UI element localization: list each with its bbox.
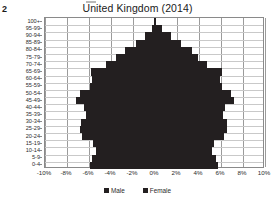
y-axis-tick-label-55-59: 55-59: [26, 82, 40, 88]
bar-male-5-9: [92, 155, 155, 162]
bar-male-70-74: [106, 61, 155, 68]
vertical-gridline-10: [265, 18, 266, 167]
bar-male-35-39: [86, 111, 155, 118]
bar-male-20-24: [82, 133, 155, 140]
y-axis-tick: [40, 78, 42, 79]
x-axis-tick-label-neg10pct: -10%: [37, 169, 51, 176]
bar-female-50-54: [155, 90, 231, 97]
bar-female-95-99: [155, 25, 162, 32]
y-axis-tick: [40, 49, 42, 50]
bar-male-30-34: [81, 119, 155, 126]
chart-legend: MaleFemale: [0, 187, 275, 194]
bar-female-30-34: [155, 119, 227, 126]
bar-female-0-4: [155, 162, 218, 169]
y-axis-tick-label-75-79: 75-79: [26, 54, 40, 60]
legend-item-female[interactable]: Female: [143, 187, 171, 194]
bar-female-40-44: [155, 104, 225, 111]
bar-male-90-94: [145, 32, 155, 39]
y-axis-tick-label-95-99: 95-99: [26, 25, 40, 31]
x-axis-tick-label-4pct: 4%: [194, 169, 203, 176]
y-axis-tick-label-85-89: 85-89: [26, 39, 40, 45]
legend-item-male[interactable]: Male: [104, 187, 125, 194]
y-axis-tick-label-80-84: 80-84: [26, 46, 40, 52]
bar-female-70-74: [155, 61, 207, 68]
bar-series-container: [45, 18, 263, 167]
y-axis-tick: [40, 128, 42, 129]
y-axis-tick: [40, 107, 42, 108]
pyramid-row: [45, 90, 263, 97]
pyramid-row: [45, 83, 263, 90]
legend-swatch-male: [104, 188, 109, 193]
bar-female-5-9: [155, 155, 216, 162]
bar-female-80-84: [155, 47, 192, 54]
bar-female-55-59: [155, 83, 222, 90]
bar-male-25-29: [80, 126, 155, 133]
pyramid-row: [45, 147, 263, 154]
y-axis-tick-label-40-44: 40-44: [26, 104, 40, 110]
x-axis-tick-label-neg8pct: -8%: [60, 169, 71, 176]
y-axis-tick: [40, 164, 42, 165]
bar-female-15-19: [155, 140, 214, 147]
legend-label-female: Female: [150, 187, 171, 194]
x-axis-tick-label-0pct: 0%: [150, 169, 159, 176]
pyramid-row: [45, 61, 263, 68]
pyramid-row: [45, 25, 263, 32]
chart-title: United Kingdom (2014): [0, 2, 275, 14]
y-axis-tick: [40, 42, 42, 43]
bar-male-80-84: [125, 47, 155, 54]
y-axis-tick: [40, 85, 42, 86]
bar-female-85-89: [155, 40, 181, 47]
y-axis-tick: [40, 157, 42, 158]
y-axis-tick: [40, 57, 42, 58]
bar-female-25-29: [155, 126, 227, 133]
y-axis-tick-label-45-49: 45-49: [26, 97, 40, 103]
bar-male-75-79: [116, 54, 155, 61]
y-axis-tick: [40, 71, 42, 72]
pyramid-row: [45, 32, 263, 39]
y-axis-tick: [40, 136, 42, 137]
y-axis-tick: [40, 93, 42, 94]
y-axis-tick-label-35-39: 35-39: [26, 111, 40, 117]
bar-male-55-59: [90, 83, 155, 90]
pyramid-row: [45, 133, 263, 140]
bar-male-40-44: [84, 104, 155, 111]
y-axis-tick-label-5-9: 5-9: [32, 154, 40, 160]
bar-female-75-79: [155, 54, 198, 61]
bar-female-45-49: [155, 97, 234, 104]
y-axis-tick: [40, 150, 42, 151]
bar-female-10-14: [155, 147, 212, 154]
pyramid-row: [45, 68, 263, 75]
y-axis-tick-label-20-24: 20-24: [26, 133, 40, 139]
pyramid-row: [45, 162, 263, 169]
y-axis-tick: [40, 35, 42, 36]
legend-label-male: Male: [111, 187, 125, 194]
y-axis-tick-label-65-69: 65-69: [26, 68, 40, 74]
y-axis-tick-label-70-74: 70-74: [26, 61, 40, 67]
x-axis-tick-label-6pct: 6%: [216, 169, 225, 176]
y-axis-tick: [40, 64, 42, 65]
plot-area: [44, 17, 264, 168]
y-axis-tick: [40, 143, 42, 144]
y-axis-tick-label-30-34: 30-34: [26, 118, 40, 124]
x-axis-tick-label-10pct: 10%: [258, 169, 270, 176]
bar-male-15-19: [93, 140, 155, 147]
pyramid-row: [45, 18, 263, 25]
x-axis-labels: -10%-8%-6%-4%-2%0%2%4%6%8%10%: [44, 169, 264, 181]
pyramid-row: [45, 76, 263, 83]
y-axis-tick-label-90-94: 90-94: [26, 32, 40, 38]
pyramid-row: [45, 119, 263, 126]
bar-male-10-14: [96, 147, 155, 154]
y-axis-tick: [40, 100, 42, 101]
y-axis-labels: 0-45-910-1415-1920-2425-2930-3435-3940-4…: [0, 17, 42, 168]
y-axis-tick-label-15-19: 15-19: [26, 140, 40, 146]
y-axis-tick: [40, 21, 42, 22]
x-axis-tick-label-8pct: 8%: [238, 169, 247, 176]
bar-female-20-24: [155, 133, 224, 140]
legend-swatch-female: [143, 188, 148, 193]
pyramid-row: [45, 140, 263, 147]
pyramid-row: [45, 97, 263, 104]
y-axis-tick: [40, 121, 42, 122]
x-axis-tick-label-neg2pct: -2%: [126, 169, 137, 176]
pyramid-row: [45, 111, 263, 118]
x-axis-tick-label-neg4pct: -4%: [104, 169, 115, 176]
